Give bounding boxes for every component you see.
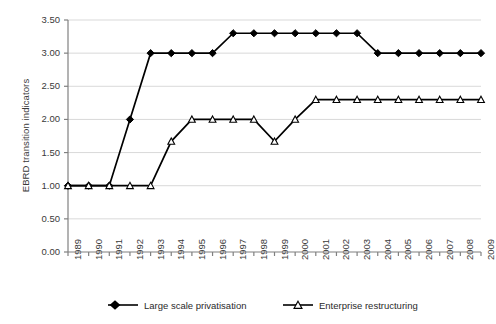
data-point-marker xyxy=(333,30,340,37)
filled-diamond-icon xyxy=(108,299,138,311)
data-point-marker xyxy=(271,30,278,37)
legend-label-large-scale-privatisation: Large scale privatisation xyxy=(144,300,246,311)
data-point-marker xyxy=(168,50,175,57)
data-point-marker xyxy=(188,50,195,57)
data-point-marker xyxy=(292,30,299,37)
data-point-marker xyxy=(395,50,402,57)
data-point-marker xyxy=(415,50,422,57)
data-point-marker xyxy=(436,50,443,57)
data-point-marker xyxy=(126,116,133,123)
legend-entry-enterprise-restructuring: Enterprise restructuring xyxy=(283,296,418,314)
data-point-marker xyxy=(477,50,484,57)
data-point-marker xyxy=(147,50,154,57)
legend-entry-large-scale-privatisation: Large scale privatisation xyxy=(108,296,246,314)
legend-label-enterprise-restructuring: Enterprise restructuring xyxy=(319,300,418,311)
chart-legend: Large scale privatisation Enterprise res… xyxy=(0,296,489,320)
data-point-marker xyxy=(250,30,257,37)
open-triangle-icon xyxy=(283,299,313,311)
data-point-marker xyxy=(457,50,464,57)
data-point-marker xyxy=(312,30,319,37)
